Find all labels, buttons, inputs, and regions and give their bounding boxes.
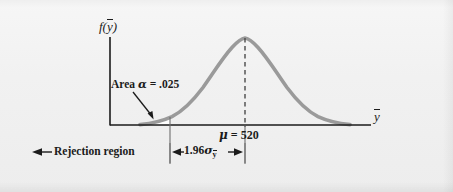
interval-label: 1.96σy — [184, 145, 217, 159]
rejection-region-label: Rejection region — [54, 146, 135, 158]
interval-coefficient: 1.96 — [184, 144, 204, 156]
interval-arrow-left — [172, 148, 184, 155]
figure-root: f(y) y Area α = .025 μ = 520 Rejection r… — [0, 0, 453, 192]
mu-symbol: μ — [219, 128, 228, 142]
distribution-plot — [0, 0, 453, 192]
area-alpha-equals: = — [150, 78, 157, 90]
mean-label: μ = 520 — [219, 129, 259, 141]
sigma-symbol: σ — [204, 143, 212, 157]
interval-subscript: y — [213, 150, 217, 159]
interval-arrow-right — [228, 148, 243, 155]
area-alpha-prefix: Area — [111, 78, 135, 90]
x-axis-label: y — [374, 110, 380, 123]
mu-value: 520 — [241, 128, 259, 142]
rejection-region-arrow — [32, 148, 52, 155]
x-axis-label-text: y — [374, 110, 380, 123]
area-alpha-value: .025 — [159, 78, 179, 90]
area-alpha-arrow — [133, 92, 154, 120]
area-alpha-label: Area α = .025 — [111, 79, 179, 91]
alpha-symbol: α — [138, 77, 147, 91]
mu-equals: = — [231, 128, 238, 142]
y-axis-label-text: f(y) — [99, 19, 117, 34]
y-axis-label: f(y) — [99, 20, 117, 33]
